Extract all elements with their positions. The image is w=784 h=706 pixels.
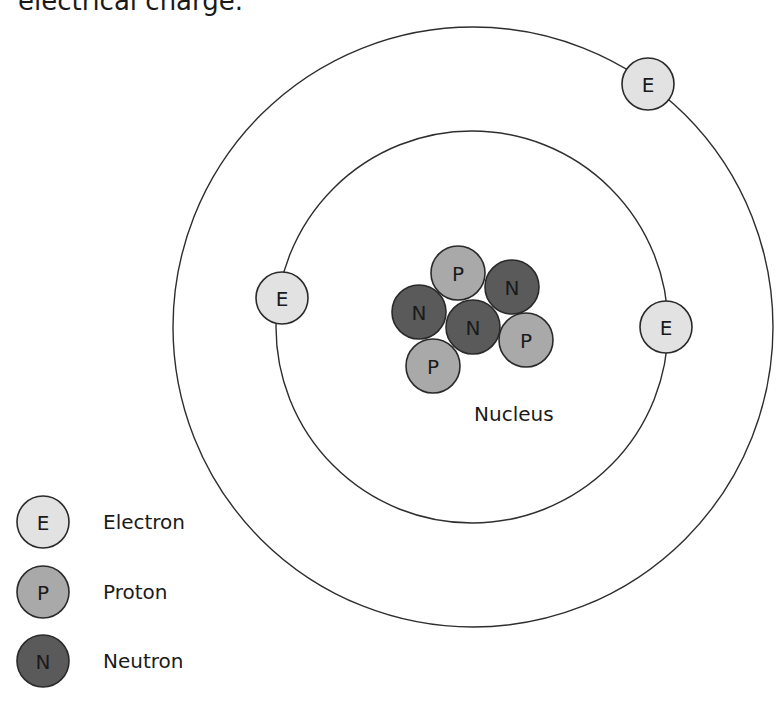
- proton-letter: P: [520, 329, 532, 353]
- atom-svg: EEE PNNNPP Nucleus EElectronPProtonNNeut…: [0, 0, 784, 706]
- nucleus-label: Nucleus: [474, 402, 554, 426]
- electron: E: [640, 301, 692, 353]
- legend-swatch-electron: E: [17, 496, 69, 548]
- legend-swatch-neutron: N: [17, 635, 69, 687]
- legend-item-electron: EElectron: [17, 496, 185, 548]
- electron-letter: E: [660, 316, 673, 340]
- atom-diagram: electrical charge. EEE PNNNPP Nucleus EE…: [0, 0, 784, 706]
- neutron: N: [392, 285, 446, 339]
- proton: P: [406, 339, 460, 393]
- neutron-letter: N: [412, 301, 427, 325]
- legend-item-neutron: NNeutron: [17, 635, 183, 687]
- neutron-letter: N: [466, 316, 481, 340]
- legend-item-proton: PProton: [17, 566, 167, 618]
- legend: EElectronPProtonNNeutron: [17, 496, 185, 687]
- proton: P: [431, 246, 485, 300]
- legend-label-proton: Proton: [103, 580, 167, 604]
- legend-swatch-proton: P: [17, 566, 69, 618]
- caption-text: electrical charge.: [18, 0, 243, 16]
- neutron-letter: N: [36, 650, 51, 674]
- proton-letter: P: [37, 581, 49, 605]
- electron-letter: E: [276, 287, 289, 311]
- electron-letter: E: [642, 73, 655, 97]
- legend-label-neutron: Neutron: [103, 649, 183, 673]
- neutron: N: [485, 260, 539, 314]
- proton-letter: P: [452, 262, 464, 286]
- electron: E: [256, 272, 308, 324]
- electron-letter: E: [37, 511, 50, 535]
- neutron: N: [446, 300, 500, 354]
- legend-label-electron: Electron: [103, 510, 185, 534]
- proton-letter: P: [427, 355, 439, 379]
- neutron-letter: N: [505, 276, 520, 300]
- proton: P: [499, 313, 553, 367]
- nucleus: PNNNPP: [392, 246, 553, 393]
- electron: E: [622, 58, 674, 110]
